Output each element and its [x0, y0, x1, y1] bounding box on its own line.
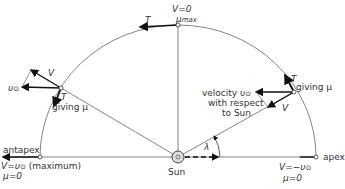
apex-label: apex [323, 152, 345, 162]
right-giving-label: giving μ [296, 82, 332, 92]
sun-icon [172, 151, 184, 163]
antapex-mu-label: μ=0 [3, 171, 22, 181]
top-mu-label: μmax [176, 14, 197, 25]
top-v-label: V=0 [172, 4, 191, 14]
velocity-label-3: to Sun [222, 108, 251, 118]
apex-mu-label: μ=0 [283, 173, 302, 183]
angle-lambda-label: λ [204, 142, 209, 152]
top-t-arrow [140, 25, 178, 27]
apex-v-label: V=−υ⊙ [279, 162, 311, 173]
right-v-label: V [282, 103, 288, 113]
antapex-label: antapex [3, 145, 40, 155]
left-v0-label: υ⊙ [8, 83, 19, 94]
angle-arc [214, 136, 220, 157]
velocity-label-2: with respect [208, 98, 263, 108]
top-t-label: T [145, 15, 151, 25]
left-v-label: V [48, 68, 54, 78]
left-giving-label: giving μ [52, 102, 88, 112]
left-t-label: T [61, 92, 67, 102]
sun-label: Sun [168, 167, 185, 177]
